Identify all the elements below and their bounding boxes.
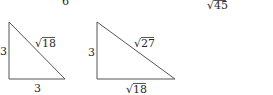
triangle-1-horizontal-leg-label: 3: [34, 82, 41, 95]
triangle-2-vertical-leg-label: 3: [88, 46, 95, 59]
triangle-1: 3 3 √18: [0, 22, 65, 95]
triangle-2-hypotenuse-label: √27: [134, 37, 155, 50]
triangle-1-hypotenuse-label: √18: [35, 37, 56, 50]
triangle-2: 3 √18 √27: [88, 22, 175, 95]
triangle-2-horizontal-leg-label: √18: [126, 83, 147, 95]
top-label-six: 6: [62, 0, 69, 8]
triangle-1-vertical-leg-label: 3: [0, 45, 7, 58]
top-label-sqrt45: √45: [207, 0, 228, 12]
triangle-1-outline: [9, 22, 65, 79]
triangle-2-outline: [97, 22, 175, 79]
triangles-diagram: 6 √45 3 3 √18 3 √18 √27: [0, 0, 273, 95]
